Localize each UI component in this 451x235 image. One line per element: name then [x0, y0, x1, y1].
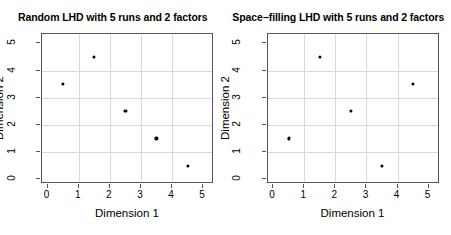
x-tick-mark: [303, 184, 304, 188]
gridline-horizontal: [42, 125, 212, 126]
x-tick-label: 3: [363, 190, 369, 200]
gridline-horizontal: [42, 71, 212, 72]
y-tick-label: 5: [7, 40, 17, 46]
x-tick-label: 3: [137, 190, 143, 200]
y-tick-label: 1: [232, 148, 242, 154]
x-tick-mark: [272, 184, 273, 188]
x-tick-label: 5: [425, 190, 431, 200]
y-axis-label: Dimension 2: [0, 53, 5, 163]
x-tick-mark: [171, 184, 172, 188]
y-tick-mark: [36, 124, 40, 125]
gridline-vertical: [110, 34, 111, 182]
data-point: [380, 164, 383, 167]
y-tick-mark: [262, 151, 266, 152]
gridline-vertical: [335, 34, 336, 182]
x-tick-mark: [140, 184, 141, 188]
x-tick-label: 4: [168, 190, 174, 200]
data-point: [155, 137, 158, 140]
panel-title: Space−filling LHD with 5 runs and 2 fact…: [226, 11, 451, 23]
y-tick-mark: [262, 97, 266, 98]
y-tick-label: 1: [7, 148, 17, 154]
x-tick-label: 0: [269, 190, 275, 200]
plot-area: [41, 33, 213, 183]
gridline-horizontal: [268, 71, 438, 72]
data-point: [93, 55, 96, 58]
x-tick-mark: [109, 184, 110, 188]
x-tick-mark: [397, 184, 398, 188]
plot-area: [267, 33, 439, 183]
x-tick-mark: [202, 184, 203, 188]
y-tick-mark: [36, 42, 40, 43]
y-tick-label: 2: [7, 121, 17, 127]
x-tick-mark: [334, 184, 335, 188]
data-point: [62, 83, 65, 86]
x-tick-label: 0: [44, 190, 50, 200]
y-tick-label: 3: [7, 94, 17, 100]
y-tick-mark: [36, 178, 40, 179]
x-tick-label: 1: [300, 190, 306, 200]
x-tick-mark: [47, 184, 48, 188]
gridline-horizontal: [268, 125, 438, 126]
y-tick-mark: [262, 42, 266, 43]
gridline-vertical: [304, 34, 305, 182]
data-point: [318, 55, 321, 58]
x-tick-label: 4: [394, 190, 400, 200]
x-tick-label: 2: [106, 190, 112, 200]
x-axis-label: Dimension 1: [267, 207, 439, 219]
panel-space-filling-lhd: Space−filling LHD with 5 runs and 2 fact…: [226, 0, 451, 235]
gridline-horizontal: [42, 152, 212, 153]
data-point: [186, 164, 189, 167]
data-point: [349, 110, 352, 113]
gridline-horizontal: [268, 152, 438, 153]
x-tick-label: 2: [332, 190, 338, 200]
x-tick-mark: [428, 184, 429, 188]
x-tick-label: 5: [199, 190, 205, 200]
gridline-vertical: [398, 34, 399, 182]
y-tick-mark: [262, 70, 266, 71]
y-axis-label: Dimension 2: [219, 53, 231, 163]
x-tick-label: 1: [75, 190, 81, 200]
y-tick-label: 0: [232, 175, 242, 181]
y-tick-label: 0: [7, 175, 17, 181]
x-axis-label: Dimension 1: [41, 207, 213, 219]
y-tick-label: 3: [232, 94, 242, 100]
x-tick-mark: [365, 184, 366, 188]
y-tick-label: 4: [7, 67, 17, 73]
figure-container: Random LHD with 5 runs and 2 factors Dim…: [0, 0, 451, 235]
y-tick-label: 2: [232, 121, 242, 127]
y-tick-mark: [262, 178, 266, 179]
y-tick-label: 4: [232, 67, 242, 73]
y-tick-mark: [36, 151, 40, 152]
panel-random-lhd: Random LHD with 5 runs and 2 factors Dim…: [0, 0, 226, 235]
y-tick-mark: [262, 124, 266, 125]
gridline-vertical: [79, 34, 80, 182]
gridline-horizontal: [42, 98, 212, 99]
data-point: [287, 137, 290, 140]
data-point: [411, 83, 414, 86]
y-tick-mark: [36, 70, 40, 71]
data-point: [124, 110, 127, 113]
gridline-horizontal: [268, 98, 438, 99]
gridline-vertical: [141, 34, 142, 182]
gridline-vertical: [172, 34, 173, 182]
gridline-vertical: [366, 34, 367, 182]
y-tick-mark: [36, 97, 40, 98]
x-tick-mark: [78, 184, 79, 188]
panel-title: Random LHD with 5 runs and 2 factors: [0, 11, 226, 23]
y-tick-label: 5: [232, 40, 242, 46]
